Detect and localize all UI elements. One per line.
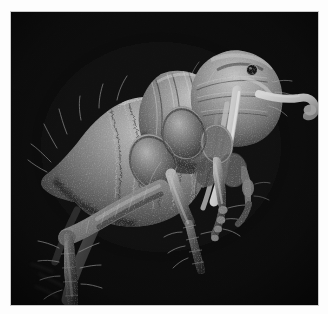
micrograph-canvas (11, 12, 318, 305)
sem-micrograph-image (11, 12, 318, 305)
photo-border: flea (0, 0, 328, 314)
vignette-layer (11, 12, 318, 305)
